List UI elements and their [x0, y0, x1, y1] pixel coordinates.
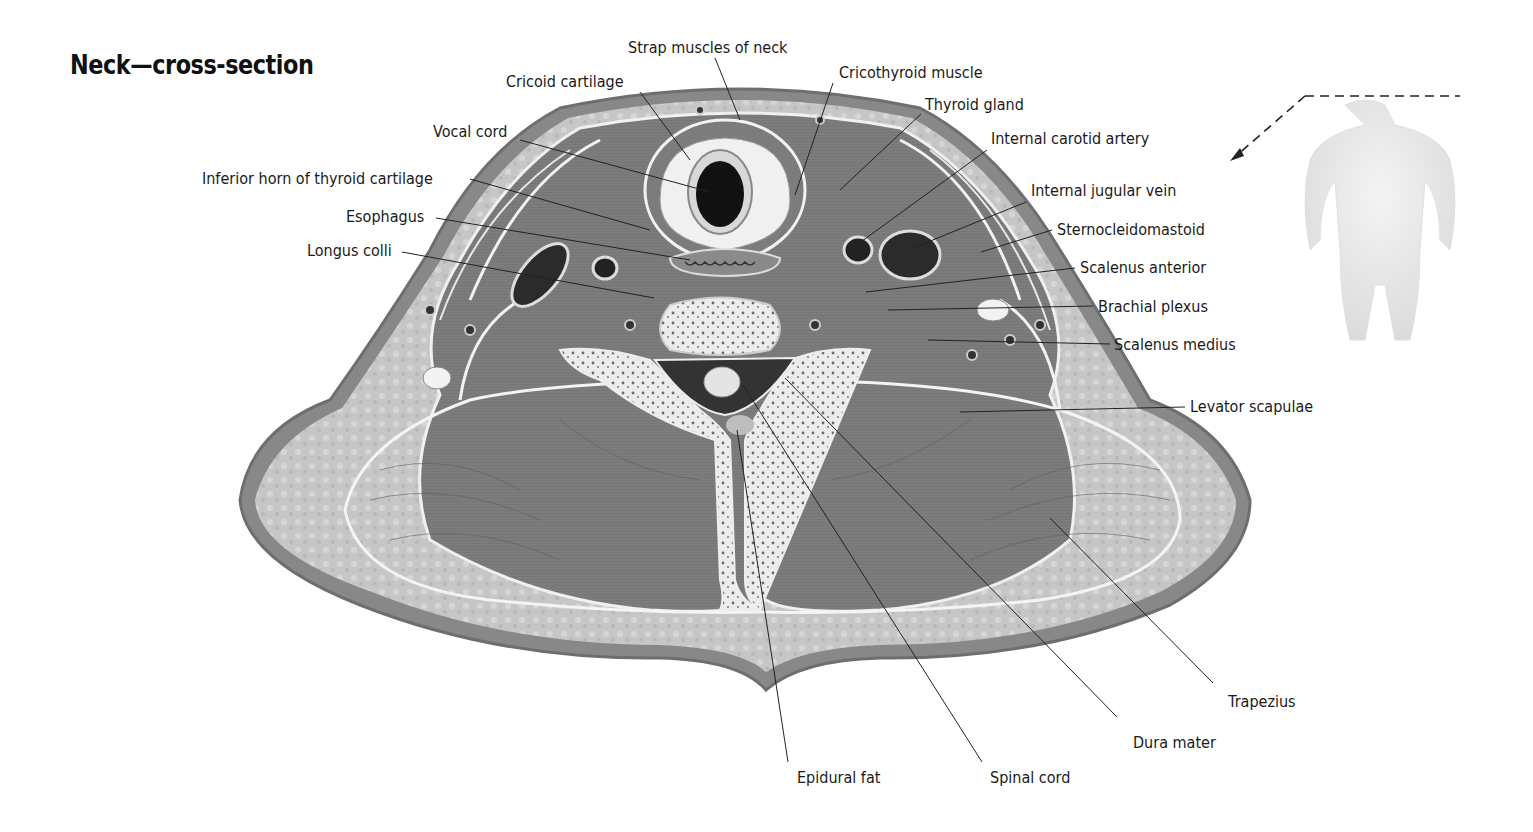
label-spinal-cord: Spinal cord [990, 769, 1070, 787]
label-internal-jugular-vein: Internal jugular vein [1031, 182, 1176, 200]
label-levator-scapulae: Levator scapulae [1190, 398, 1313, 416]
label-sternocleidomastoid: Sternocleidomastoid [1057, 221, 1205, 239]
label-vocal-cord: Vocal cord [433, 123, 507, 141]
label-scalenus-anterior: Scalenus anterior [1080, 259, 1206, 277]
label-internal-carotid-artery: Internal carotid artery [991, 130, 1149, 148]
label-inferior-horn-thyroid: Inferior horn of thyroid cartilage [202, 170, 433, 188]
label-esophagus: Esophagus [346, 208, 424, 226]
label-strap-muscles: Strap muscles of neck [628, 39, 787, 57]
label-cricoid-cartilage: Cricoid cartilage [506, 73, 624, 91]
label-brachial-plexus: Brachial plexus [1098, 298, 1208, 316]
label-dura-mater: Dura mater [1133, 734, 1216, 752]
label-cricothyroid-muscle: Cricothyroid muscle [839, 64, 983, 82]
label-trapezius: Trapezius [1228, 693, 1296, 711]
label-epidural-fat: Epidural fat [797, 769, 880, 787]
page-title: Neck—cross-section [70, 50, 314, 80]
direction-arrow-dash [1236, 96, 1305, 156]
spinal-cord-shape [704, 367, 740, 397]
neck-cross-section-illustration [0, 0, 1533, 832]
locator-figure [1230, 96, 1460, 340]
label-thyroid-gland: Thyroid gland [925, 96, 1024, 114]
label-longus-colli: Longus colli [307, 242, 392, 260]
label-scalenus-medius: Scalenus medius [1114, 336, 1236, 354]
